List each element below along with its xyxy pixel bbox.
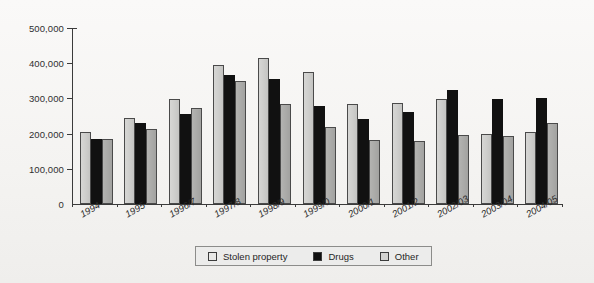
bar: [258, 58, 269, 204]
bar: [135, 123, 146, 204]
bar: [269, 79, 280, 204]
bar: [458, 135, 469, 204]
bar: [224, 75, 235, 204]
legend-label: Drugs: [328, 251, 353, 262]
legend-item[interactable]: Drugs: [313, 251, 353, 262]
legend-item[interactable]: Stolen property: [208, 251, 287, 262]
x-tick-mark: [517, 204, 518, 207]
bar-group: [169, 28, 202, 204]
bar-group: [80, 28, 113, 204]
bar: [169, 99, 180, 204]
y-tick-label: 400,000: [29, 58, 64, 69]
x-tick-mark: [117, 204, 118, 207]
bar: [492, 99, 503, 204]
x-tick-mark: [161, 204, 162, 207]
bar: [503, 136, 514, 204]
bar-group: [258, 28, 291, 204]
bar: [80, 132, 91, 204]
x-tick-mark: [384, 204, 385, 207]
y-tick-label: 200,000: [29, 128, 64, 139]
bar: [235, 81, 246, 204]
bar-group: [347, 28, 380, 204]
bar-group: [392, 28, 425, 204]
bar: [180, 114, 191, 204]
bar-chart: 500,000400,000300,000200,000100,0000 199…: [0, 0, 594, 283]
bar: [314, 106, 325, 204]
bar: [213, 65, 224, 204]
bar: [481, 134, 492, 204]
bar-group: [124, 28, 157, 204]
bar: [525, 132, 536, 204]
y-tick-label: 0: [59, 199, 64, 210]
bar: [547, 123, 558, 204]
bar: [91, 139, 102, 204]
y-tick-label: 100,000: [29, 163, 64, 174]
bar: [436, 99, 447, 204]
bar-group: [436, 28, 469, 204]
x-tick-mark: [295, 204, 296, 207]
bar-group: [213, 28, 246, 204]
x-tick-mark: [339, 204, 340, 207]
bar: [447, 90, 458, 204]
bar-group: [525, 28, 558, 204]
y-tick-label: 500,000: [29, 23, 64, 34]
x-tick-mark: [206, 204, 207, 207]
bar-group: [303, 28, 336, 204]
legend-swatch-stolen-icon: [208, 252, 217, 261]
legend-label: Stolen property: [223, 251, 287, 262]
bar: [303, 72, 314, 204]
x-tick-mark: [72, 204, 73, 207]
x-axis-line: [72, 204, 562, 205]
bar: [325, 127, 336, 204]
bar: [358, 119, 369, 204]
x-tick-mark: [250, 204, 251, 207]
legend-swatch-drugs-icon: [313, 252, 322, 261]
bar: [146, 129, 157, 204]
bar: [124, 118, 135, 204]
bar: [280, 104, 291, 204]
bar: [392, 103, 403, 204]
x-tick-mark: [473, 204, 474, 207]
y-axis-labels: 500,000400,000300,000200,000100,0000: [0, 28, 64, 205]
legend-swatch-other-icon: [380, 252, 389, 261]
plot-area: [72, 28, 562, 204]
bar: [102, 139, 113, 204]
bar: [403, 112, 414, 204]
bar: [369, 140, 380, 204]
x-tick-mark: [562, 204, 563, 207]
y-tick-label: 300,000: [29, 93, 64, 104]
bar-group: [481, 28, 514, 204]
bar: [191, 108, 202, 204]
x-tick-mark: [428, 204, 429, 207]
chart-legend: Stolen propertyDrugsOther: [195, 246, 432, 266]
bar: [414, 141, 425, 204]
legend-label: Other: [395, 251, 419, 262]
bar: [536, 98, 547, 204]
legend-item[interactable]: Other: [380, 251, 419, 262]
bar: [347, 104, 358, 204]
